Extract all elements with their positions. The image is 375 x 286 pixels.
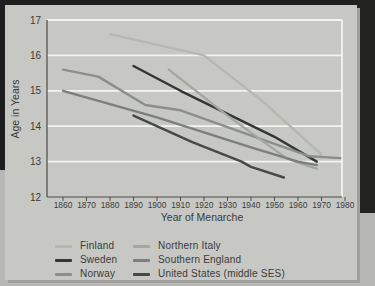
legend-label-southern-england: Southern England	[158, 255, 241, 265]
series-line-united-states-middle-ses	[134, 116, 284, 178]
x-tick-label-1980: 1980	[336, 200, 355, 210]
x-tick-label-1940: 1940	[242, 200, 261, 210]
x-tick-label-1890: 1890	[124, 200, 143, 210]
y-axis-title: Age in Years	[9, 80, 21, 139]
x-tick-label-1930: 1930	[218, 200, 237, 210]
legend-label-norway: Norway	[80, 269, 115, 279]
legend-item-northern-italy: Northern Italy	[133, 241, 285, 251]
legend-item-united-states-middle-ses: United States (middle SES)	[133, 269, 285, 279]
legend-item-norway: Norway	[55, 269, 117, 279]
legend-swatch-southern-england	[133, 259, 150, 262]
legend-item-southern-england: Southern England	[133, 255, 285, 265]
legend-swatch-united-states-middle-ses	[133, 273, 150, 276]
legend-label-united-states-middle-ses: United States (middle SES)	[158, 269, 285, 279]
y-tick-label-17: 17	[30, 15, 42, 26]
scan-frame-right	[357, 0, 375, 213]
legend-column-2: Northern ItalySouthern EnglandUnited Sta…	[133, 241, 285, 279]
legend-swatch-northern-italy	[133, 245, 150, 248]
legend-label-finland: Finland	[80, 241, 114, 251]
x-tick-label-1870: 1870	[77, 200, 96, 210]
y-tick-label-12: 12	[30, 192, 42, 203]
y-tick-label-13: 13	[30, 156, 42, 167]
legend-item-sweden: Sweden	[55, 255, 117, 265]
x-tick-label-1950: 1950	[265, 200, 284, 210]
x-tick-label-1860: 1860	[54, 200, 73, 210]
x-tick-label-1960: 1960	[289, 200, 308, 210]
y-tick-label-14: 14	[30, 121, 42, 132]
legend-swatch-norway	[55, 273, 72, 276]
legend-item-finland: Finland	[55, 241, 117, 251]
figure-panel: 1716151413121860187018801890190019101920…	[5, 5, 357, 280]
y-tick-label-16: 16	[30, 50, 42, 61]
legend-label-sweden: Sweden	[80, 255, 117, 265]
x-tick-label-1910: 1910	[171, 200, 190, 210]
y-tick-label-15: 15	[30, 85, 42, 96]
legend-swatch-finland	[55, 245, 72, 248]
x-tick-label-1970: 1970	[312, 200, 331, 210]
x-tick-label-1920: 1920	[195, 200, 214, 210]
x-tick-label-1880: 1880	[101, 200, 120, 210]
chart-canvas: 1716151413121860187018801890190019101920…	[5, 5, 357, 237]
legend-label-northern-italy: Northern Italy	[158, 241, 221, 251]
x-tick-label-1900: 1900	[148, 200, 167, 210]
legend-column-1: FinlandSwedenNorway	[55, 241, 117, 279]
menarche-line-chart: 1716151413121860187018801890190019101920…	[5, 5, 357, 241]
legend-swatch-sweden	[55, 259, 72, 262]
x-axis-title: Year of Menarche	[161, 211, 244, 223]
